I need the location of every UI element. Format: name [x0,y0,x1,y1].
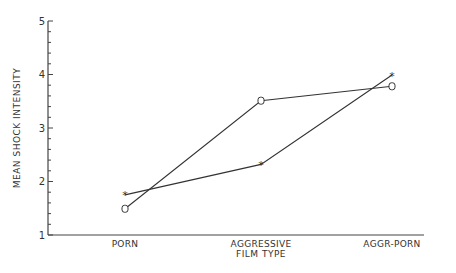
y-tick-label: 5 [39,16,45,27]
data-series: *** [122,70,395,213]
y-tick-label: 1 [39,230,45,241]
x-category-label: AGGRESSIVE [231,239,292,249]
y-tick-label: 2 [39,176,45,187]
y-axis-title: MEAN SHOCK INTENSITY [12,68,22,188]
star-marker-icon: * [122,189,128,202]
y-tick-label: 3 [39,123,45,134]
circle-marker-icon [389,83,395,90]
circle-marker-icon [258,97,264,104]
x-category-label: AGGR-PORN [363,239,420,249]
y-tick-label: 4 [39,69,45,80]
line-chart: 12345 PORNAGGRESSIVEAGGR-PORN *** MEAN S… [0,0,456,273]
y-tick-labels: 12345 [39,16,45,241]
star-marker-icon: * [258,159,264,172]
star-marker-icon: * [389,70,395,83]
circle-marker-line [125,86,392,209]
circle-marker-icon [122,205,128,212]
chart-axes [48,21,424,235]
x-axis-title: FILM TYPE [236,249,286,259]
x-category-labels: PORNAGGRESSIVEAGGR-PORN [112,239,421,249]
x-category-label: PORN [112,239,139,249]
